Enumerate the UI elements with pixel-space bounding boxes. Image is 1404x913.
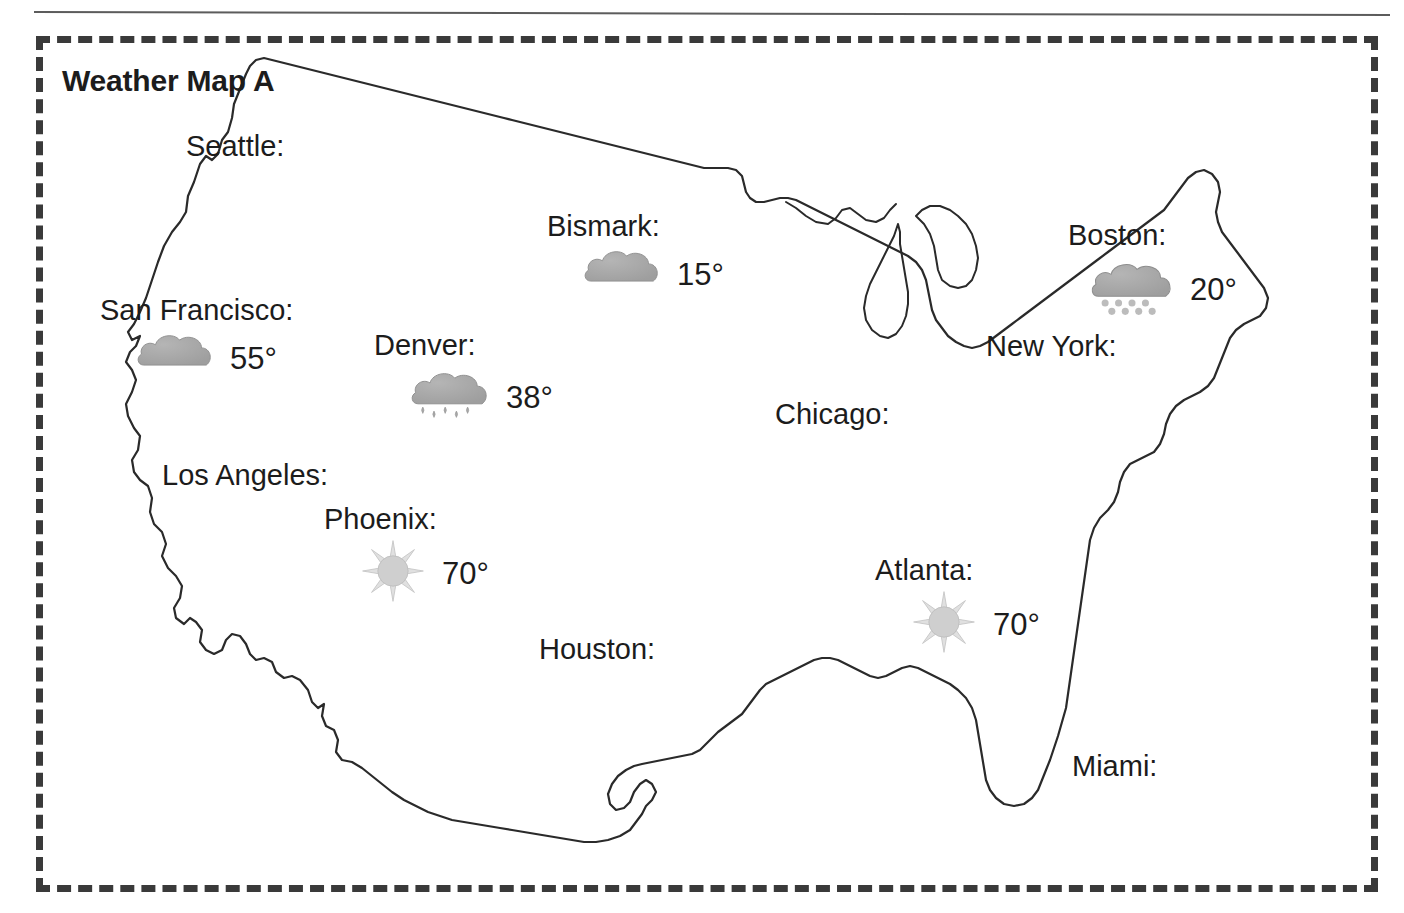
- page-top-rule: [34, 11, 1390, 16]
- city-label-seattle: Seattle:: [186, 132, 284, 161]
- city-label-chicago: Chicago:: [775, 400, 889, 429]
- city-temperature-atlanta: 70°: [993, 609, 1040, 640]
- city-label-los-angeles: Los Angeles:: [162, 461, 328, 490]
- snow-cloud-icon: [1090, 254, 1174, 324]
- city-label-houston: Houston:: [539, 635, 655, 664]
- city-reading-san-francisco: 55°: [100, 329, 293, 388]
- city-label-bismark: Bismark:: [547, 212, 724, 241]
- city-label-miami: Miami:: [1072, 752, 1157, 781]
- city-entry-boston: Boston:20°: [1068, 221, 1237, 324]
- city-temperature-denver: 38°: [506, 382, 553, 413]
- city-entry-seattle: Seattle:: [186, 132, 284, 161]
- city-label-san-francisco: San Francisco:: [100, 296, 293, 325]
- city-label-atlanta: Atlanta:: [875, 556, 1040, 585]
- city-entry-new-york: New York:: [986, 332, 1117, 361]
- city-entry-atlanta: Atlanta:70°: [875, 556, 1040, 659]
- city-reading-denver: 38°: [374, 364, 553, 430]
- city-entry-bismark: Bismark:15°: [547, 212, 724, 304]
- cloud-icon: [136, 329, 214, 388]
- city-entry-san-francisco: San Francisco:55°: [100, 296, 293, 388]
- city-entry-phoenix: Phoenix:70°: [324, 505, 489, 608]
- rain-cloud-icon: [410, 364, 490, 430]
- city-temperature-san-francisco: 55°: [230, 343, 277, 374]
- city-reading-atlanta: 70°: [875, 589, 1040, 659]
- sun-icon: [911, 589, 977, 659]
- city-reading-boston: 20°: [1068, 254, 1237, 324]
- city-entry-los-angeles: Los Angeles:: [162, 461, 328, 490]
- page-title: Weather Map A: [62, 64, 274, 98]
- city-entry-denver: Denver:38°: [374, 331, 553, 430]
- city-entry-miami: Miami:: [1072, 752, 1157, 781]
- cloud-icon: [583, 245, 661, 304]
- city-label-denver: Denver:: [374, 331, 553, 360]
- city-label-boston: Boston:: [1068, 221, 1237, 250]
- city-temperature-phoenix: 70°: [442, 558, 489, 589]
- city-reading-bismark: 15°: [547, 245, 724, 304]
- city-label-phoenix: Phoenix:: [324, 505, 489, 534]
- city-temperature-bismark: 15°: [677, 259, 724, 290]
- sun-icon: [360, 538, 426, 608]
- city-label-new-york: New York:: [986, 332, 1117, 361]
- city-entry-houston: Houston:: [539, 635, 655, 664]
- city-temperature-boston: 20°: [1190, 274, 1237, 305]
- city-reading-phoenix: 70°: [324, 538, 489, 608]
- city-entry-chicago: Chicago:: [775, 400, 889, 429]
